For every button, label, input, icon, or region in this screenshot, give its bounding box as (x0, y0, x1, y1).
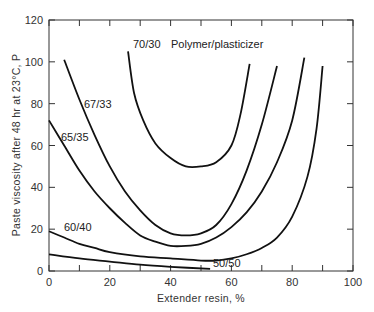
y-tick-label: 100 (25, 56, 43, 68)
x-tick-label: 60 (225, 276, 237, 288)
label-70-30: 70/30 (133, 38, 161, 50)
x-axis-title: Extender resin, % (157, 292, 245, 304)
y-tick-label: 60 (31, 140, 43, 152)
curve-labels: 70/30 Polymer/plasticizer 67/33 65/35 60… (61, 38, 264, 269)
y-tick-label: 20 (31, 223, 43, 235)
y-tick-label: 120 (25, 14, 43, 26)
label-65-35: 65/35 (61, 131, 89, 143)
x-tick-label: 100 (344, 276, 362, 288)
x-tick-label: 40 (164, 276, 176, 288)
x-tick-label: 80 (286, 276, 298, 288)
viscosity-chart: 020406080100020406080100120 70/30 Polyme… (0, 0, 374, 312)
label-60-40: 60/40 (64, 221, 92, 233)
x-tick-label: 20 (104, 276, 116, 288)
y-axis-title: Paste viscosity after 48 hr at 23°C, P (10, 54, 22, 237)
y-tick-label: 40 (31, 181, 43, 193)
label-polymer-plasticizer: Polymer/plasticizer (171, 38, 264, 50)
curve-50-50 (49, 254, 210, 269)
y-tick-label: 80 (31, 98, 43, 110)
plot-axes: 020406080100020406080100120 (25, 14, 363, 288)
curve-65-35 (49, 58, 304, 247)
curves (49, 51, 323, 269)
label-67-33: 67/33 (84, 98, 112, 110)
label-50-50: 50/50 (213, 257, 241, 269)
y-tick-label: 0 (37, 265, 43, 277)
x-tick-label: 0 (46, 276, 52, 288)
curve-70-30 (128, 51, 250, 167)
